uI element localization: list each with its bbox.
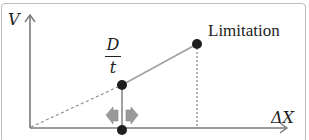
dashed-extrapolation-line	[31, 85, 122, 127]
x-axis-label: ΔX	[271, 110, 294, 126]
x-axis	[30, 123, 287, 133]
limitation-point-dot	[192, 39, 202, 49]
fraction-denominator: t	[104, 60, 122, 76]
fraction-bar	[105, 56, 121, 57]
x-axis-marker-dot	[117, 125, 127, 135]
slope-fraction: D t	[104, 37, 122, 76]
y-axis-label: V	[8, 12, 20, 28]
arrow-left-icon	[106, 107, 118, 124]
operating-point-dot	[117, 80, 127, 90]
fraction-numerator: D	[104, 37, 122, 53]
y-axis	[25, 15, 35, 128]
slope-line	[122, 44, 197, 85]
limitation-label: Limitation	[208, 22, 280, 39]
arrow-right-icon	[126, 107, 138, 124]
